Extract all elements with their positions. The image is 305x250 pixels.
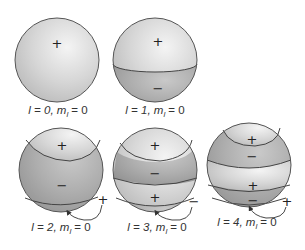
sphere-l4: + − + − +	[207, 118, 292, 218]
callout-sign: +	[98, 192, 109, 207]
sign-plus: +	[57, 138, 68, 153]
sphere-l3: + − + −	[113, 128, 199, 230]
label-m: m	[60, 221, 70, 233]
label-value: = 0	[71, 221, 91, 233]
label-l1: l = 1, ml = 0	[125, 104, 184, 119]
label-value: = 0	[68, 104, 88, 116]
label-value: = 0	[257, 216, 277, 228]
sign-plus: +	[150, 190, 161, 205]
sign-plus: +	[150, 138, 161, 153]
label-m: m	[57, 104, 67, 116]
sign-minus: −	[247, 149, 258, 164]
sign-plus: +	[247, 132, 258, 147]
label-l-part: l = 4,	[217, 216, 245, 228]
label-value: = 0	[167, 221, 187, 233]
label-l0: l = 0, ml = 0	[28, 104, 87, 119]
sphere-l0: +	[15, 18, 99, 102]
sphere-l2: + − +	[19, 120, 108, 220]
callout-sign: +	[282, 194, 293, 209]
callout-sign: −	[189, 194, 200, 209]
label-l3: l = 3, ml = 0	[127, 221, 186, 236]
sign-minus: −	[150, 166, 161, 181]
label-l2: l = 2, ml = 0	[31, 221, 90, 236]
label-l-part: l = 1,	[125, 104, 153, 116]
label-l4: l = 4, ml = 0	[217, 216, 276, 231]
sign-plus: +	[248, 178, 259, 193]
label-m: m	[246, 216, 256, 228]
spherical-harmonics-diagram: + + − + − + + −	[0, 0, 305, 250]
sign-plus: +	[153, 34, 164, 49]
label-m: m	[154, 104, 164, 116]
label-value: = 0	[165, 104, 185, 116]
sign-minus: −	[153, 81, 164, 96]
sign-minus: −	[248, 193, 259, 208]
label-l-part: l = 3,	[127, 221, 155, 233]
sphere-l1: + −	[113, 18, 197, 110]
sign-plus: +	[52, 36, 63, 51]
label-m: m	[156, 221, 166, 233]
sign-minus: −	[57, 178, 68, 193]
label-l-part: l = 2,	[31, 221, 59, 233]
label-l-part: l = 0,	[28, 104, 56, 116]
